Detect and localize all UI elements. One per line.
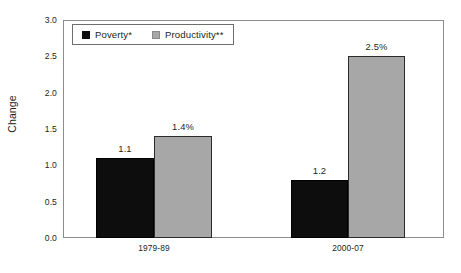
legend-label-poverty: Poverty* xyxy=(95,29,132,40)
legend-item-productivity: Productivity** xyxy=(152,29,223,40)
bar-productivity-1979-89 xyxy=(154,136,212,238)
legend-swatch-poverty-icon xyxy=(82,31,90,39)
chart-legend: Poverty* Productivity** xyxy=(72,24,234,45)
bar-value-label: 1.1 xyxy=(96,143,154,154)
bar-poverty-2000-07 xyxy=(291,180,348,238)
x-axis-category-label: 2000-07 xyxy=(291,243,405,253)
legend-label-productivity: Productivity** xyxy=(165,29,223,40)
bar-value-label: 1.2 xyxy=(291,165,348,176)
bar-productivity-2000-07 xyxy=(348,56,405,238)
bar-value-label: 1.4% xyxy=(154,121,212,132)
legend-swatch-productivity-icon xyxy=(152,31,160,39)
legend-item-poverty: Poverty* xyxy=(82,29,132,40)
bar-value-label: 2.5% xyxy=(348,41,405,52)
bar-chart: Change 3.02.52.01.51.00.50.0 1.11.4%1.22… xyxy=(0,0,461,273)
x-axis-category-label: 1979-89 xyxy=(96,243,212,253)
bar-poverty-1979-89 xyxy=(96,158,154,238)
